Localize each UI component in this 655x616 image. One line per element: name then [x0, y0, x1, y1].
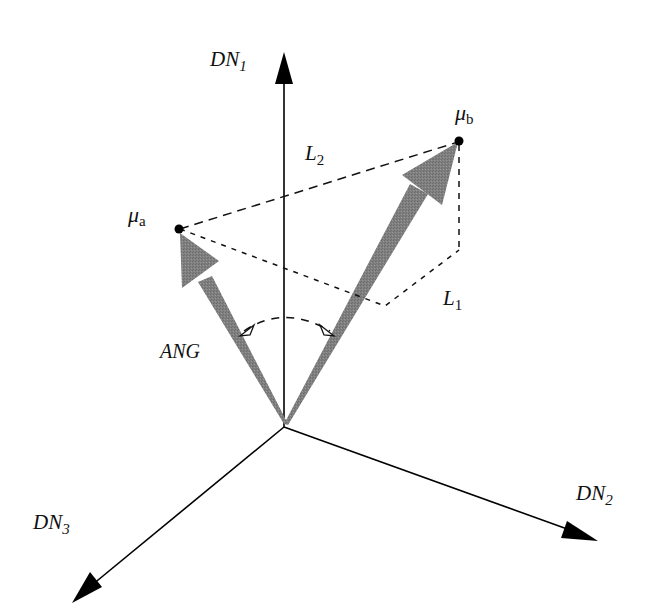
axis-dn2	[284, 427, 570, 530]
distance-label-l2: L2	[304, 141, 324, 168]
axis-label-dn2: DN2	[575, 481, 613, 508]
arrowhead-dn2-icon	[561, 521, 598, 541]
l1-line	[180, 229, 459, 306]
angle-arc	[244, 318, 330, 332]
angle-arrow-left-icon	[240, 325, 254, 336]
axis-dn3	[92, 427, 284, 585]
arrowhead-dn1-icon	[275, 52, 293, 84]
point-mu-a	[175, 225, 184, 234]
point-mu-b	[455, 137, 464, 146]
vectors	[180, 142, 458, 425]
point-label-mu-a: μa	[127, 202, 146, 229]
vector-b-shaft	[284, 184, 428, 425]
vector-a-shaft	[198, 276, 287, 424]
angle-label: ANG	[158, 340, 201, 362]
distance-label-l1: L1	[442, 286, 462, 313]
axis-label-dn3: DN3	[32, 510, 70, 537]
spectral-angle-diagram: DN1 DN2 DN3 μa μb L2 L1 ANG	[0, 0, 655, 616]
arrowhead-dn3-icon	[72, 572, 102, 603]
axis-label-dn1: DN1	[209, 47, 247, 74]
point-label-mu-b: μb	[454, 100, 474, 127]
angle-arrows	[240, 325, 334, 336]
angle-arrow-right-icon	[320, 325, 334, 336]
